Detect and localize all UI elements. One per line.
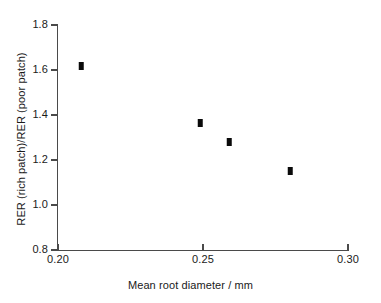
y-tick-label: 1.4	[32, 109, 48, 120]
x-tick-label: 0.30	[337, 254, 359, 265]
y-tick-label: 1.6	[32, 64, 48, 75]
y-axis-title: RER (rich patch)/RER (poor patch)	[15, 29, 27, 249]
data-point-3	[227, 138, 232, 146]
y-tick-label: 1.2	[32, 154, 48, 165]
x-tick-mark	[57, 244, 58, 251]
y-tick-label: 1.0	[32, 199, 48, 210]
data-point-1	[79, 62, 84, 70]
x-tick-label: 0.25	[192, 254, 214, 265]
scatter-plot-figure: 0.81.01.21.41.61.8 0.200.250.30 Mean roo…	[0, 0, 381, 303]
y-tick-mark	[51, 159, 58, 160]
data-point-2	[198, 119, 203, 127]
data-point-4	[288, 167, 293, 175]
x-tick-mark	[347, 244, 348, 251]
y-tick-mark	[51, 114, 58, 115]
y-tick-mark	[51, 204, 58, 205]
y-tick-mark	[51, 24, 58, 25]
y-tick-label: 1.8	[32, 19, 48, 30]
y-tick-mark	[51, 69, 58, 70]
x-axis-title: Mean root diameter / mm	[0, 279, 381, 291]
x-tick-mark	[202, 244, 203, 251]
x-tick-label: 0.20	[47, 254, 69, 265]
y-axis-line	[57, 24, 58, 251]
y-tick-label: 0.8	[32, 244, 48, 255]
